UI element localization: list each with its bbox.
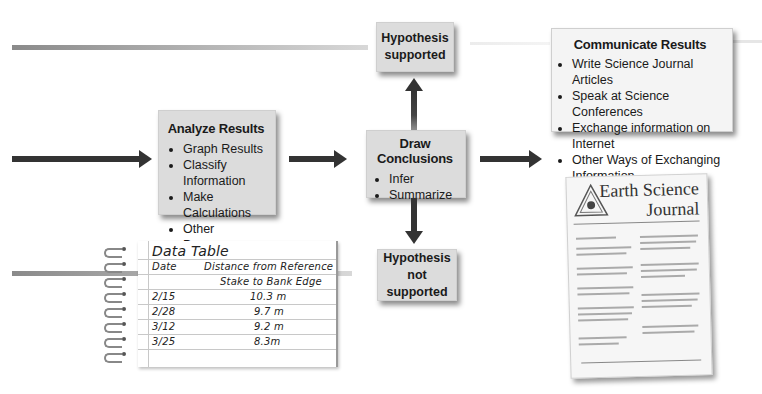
hypothesis-supported-box: Hypothesis supported [376, 22, 454, 72]
text-line [576, 237, 616, 240]
column-header-distance-2: Stake to Bank Edge [220, 276, 322, 287]
text-line [640, 247, 690, 250]
column-header-distance: Distance from Reference [204, 261, 333, 272]
text-line [641, 275, 685, 278]
list-item: Write Science Journal Articles [572, 56, 726, 88]
list-item: Speak at Science Conferences [572, 88, 726, 120]
hypothesis-supported-line1: Hypothesis [381, 30, 448, 47]
text-line [640, 234, 698, 238]
ruled-line [138, 319, 336, 320]
hypothesis-not-supported-line1: Hypothesis not [378, 250, 456, 284]
draw-conclusions-box: Draw Conclusions Infer Summarize [366, 130, 466, 198]
text-line [579, 343, 619, 346]
ruled-line [138, 334, 336, 335]
text-line [642, 305, 692, 308]
text-line [578, 312, 632, 315]
text-line [641, 292, 699, 296]
table-cell-distance: 9.2 m [254, 321, 284, 332]
arrow-up-icon [411, 90, 417, 132]
spiral-coil-icon [104, 308, 122, 318]
arrow-down-icon [411, 198, 417, 232]
spiral-coil-icon [104, 323, 122, 333]
table-cell-distance: 8.3m [254, 336, 280, 347]
text-line [642, 331, 694, 334]
spiral-coil-icon [104, 263, 122, 273]
hypothesis-not-supported-box: Hypothesis not supported [377, 249, 457, 301]
draw-conclusions-title: Draw Conclusions [371, 136, 459, 166]
spiral-coil-icon [104, 338, 122, 348]
spiral-coil-icon [104, 248, 122, 258]
text-line [578, 318, 628, 321]
text-line [642, 298, 698, 301]
connector-bar-top [12, 45, 368, 50]
communicate-results-box: Communicate Results Write Science Journa… [551, 28, 733, 132]
ruled-line [138, 259, 336, 260]
text-line [641, 268, 697, 271]
hypothesis-supported-line2: supported [381, 47, 448, 64]
communicate-results-list: Write Science Journal Articles Speak at … [554, 56, 726, 184]
text-line [578, 306, 634, 309]
table-cell-distance: 9.7 m [254, 306, 284, 317]
text-line [642, 324, 698, 327]
text-line [577, 272, 627, 275]
list-item: Infer [389, 171, 459, 187]
hypothesis-not-supported-line2: supported [378, 284, 456, 301]
arrow-right-icon [480, 156, 530, 162]
ruled-line [138, 289, 336, 290]
text-line [577, 286, 633, 289]
earth-science-journal: Earth Science Journal [565, 173, 712, 379]
spiral-coil-icon [104, 293, 122, 303]
table-cell-date: 2/15 [152, 291, 175, 302]
data-table-title: Data Table [152, 243, 229, 259]
column-header-date: Date [152, 261, 177, 272]
spiral-coil-icon [104, 278, 122, 288]
analyze-results-box: Analyze Results Graph Results Classify I… [158, 110, 276, 215]
text-line [577, 266, 633, 269]
table-cell-date: 3/25 [152, 336, 175, 347]
list-item: Graph Results [183, 141, 269, 157]
ruled-line [138, 349, 336, 350]
arrow-right-icon [12, 156, 140, 162]
arrow-right-icon [289, 156, 335, 162]
spiral-coil-icon [104, 353, 122, 363]
ruled-line [138, 274, 336, 275]
journal-title-line2: Journal [646, 198, 700, 220]
list-item: Exchange information on Internet [572, 120, 726, 152]
list-item: Classify Information [183, 157, 269, 189]
text-line [640, 240, 696, 243]
analyze-results-title: Analyze Results [163, 121, 269, 136]
table-cell-date: 3/12 [152, 321, 175, 332]
list-item: Make Calculations [183, 189, 269, 221]
text-line [641, 262, 699, 266]
communicate-results-title: Communicate Results [554, 37, 726, 52]
text-line [576, 246, 631, 249]
analyze-results-list: Graph Results Classify Information Make … [163, 141, 269, 253]
table-cell-date: 2/28 [152, 306, 175, 317]
list-item: Summarize [389, 187, 459, 203]
divider [581, 359, 701, 363]
divider [574, 220, 700, 224]
connector-bar-top-right [470, 42, 550, 45]
text-line [579, 336, 627, 339]
data-table-notebook: Data Table Date Distance from Reference … [138, 241, 338, 367]
ruled-line [138, 304, 336, 305]
text-line [577, 292, 629, 295]
text-line [576, 252, 626, 255]
table-cell-distance: 10.3 m [250, 291, 286, 302]
